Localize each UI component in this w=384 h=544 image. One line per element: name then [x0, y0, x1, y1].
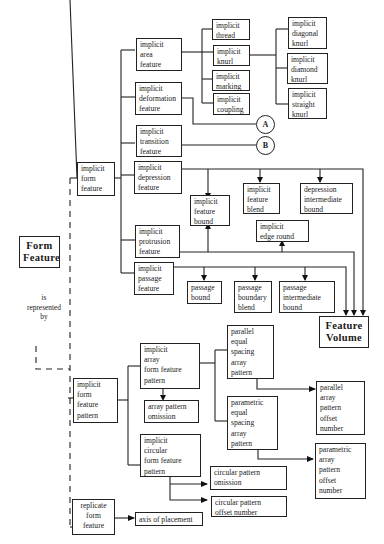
implicit-edge-round-box: implicit edge round — [256, 220, 309, 242]
form-feature-box: Form Feature — [19, 236, 60, 268]
circular-pattern-offset-number-box: circular pattern offset number — [211, 496, 287, 517]
axis-of-placement-box: axis of placement — [135, 512, 203, 526]
connector-a: A — [256, 115, 275, 134]
implicit-straight-knurl-box: implicit straight knurl — [288, 88, 327, 119]
replicate-form-feature-box: replicate form feature — [72, 499, 115, 535]
implicit-feature-bound-box: implicit feature bound — [190, 195, 230, 226]
implicit-coupling-box: implicit coupling — [213, 93, 250, 115]
implicit-diagonal-knurl-box: implicit diagonal knurl — [288, 17, 327, 49]
implicit-depression-feature-box: implicit depression feature — [134, 161, 182, 194]
implicit-circular-form-feature-pattern-box: implicit circular form feature pattern — [140, 434, 201, 477]
circular-pattern-omission-box: circular pattern omission — [210, 466, 287, 490]
implicit-array-form-feature-pattern-box: implicit array form feature pattern — [140, 343, 200, 389]
passage-boundary-blend-box: passage boundary blend — [234, 281, 272, 313]
array-pattern-omission-box: array pattern omission — [144, 400, 199, 423]
parallel-equal-spacing-array-pattern-box: parallel equal spacing array pattern — [227, 325, 274, 379]
passage-bound-box: passage bound — [187, 281, 222, 304]
passage-intermediate-bound-box: passage intermediate bound — [279, 281, 335, 313]
parallel-array-pattern-offset-number-box: parallel array pattern offset number — [316, 381, 365, 435]
implicit-form-feature-box: implicit form feature — [77, 162, 115, 196]
parametric-array-pattern-offset-number-box: parametric array pattern offset number — [315, 443, 366, 499]
connector-b: B — [256, 136, 275, 155]
is-represented-by-label: is represented by — [24, 293, 64, 322]
implicit-thread-box: implicit thread — [212, 19, 250, 40]
implicit-deformation-feature-box: implicit deformation feature — [135, 82, 182, 115]
depression-intermediate-bound-box: depression intermediate bound — [300, 183, 353, 214]
implicit-form-feature-pattern-box: implicit form feature pattern — [73, 378, 118, 423]
implicit-protrusion-feature-box: implicit protrusion feature — [135, 225, 180, 258]
parametric-equal-spacing-array-pattern-box: parametric equal spacing array pattern — [227, 396, 278, 450]
implicit-feature-blend-box: implicit feature blend — [243, 183, 280, 214]
implicit-marking-box: implicit marking — [212, 70, 250, 91]
implicit-diamond-knurl-box: implicit diamond knurl — [287, 53, 328, 84]
implicit-passage-feature-box: implicit passage feature — [134, 262, 174, 295]
implicit-knurl-box: implicit knurl — [213, 45, 250, 66]
implicit-transition-feature-box: implicit transition feature — [136, 125, 182, 157]
feature-volume-box: Feature Volume — [319, 316, 369, 348]
implicit-area-feature-box: implicit area feature — [136, 38, 182, 71]
